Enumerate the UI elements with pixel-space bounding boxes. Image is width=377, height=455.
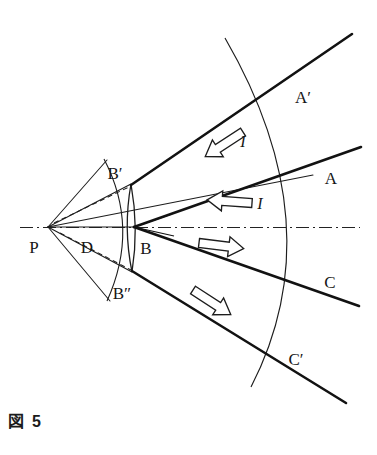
label-current-upper: I — [239, 133, 246, 150]
figure-caption: 図5 — [8, 408, 42, 432]
label-c: C — [324, 273, 335, 292]
label-c-prime: C′ — [288, 350, 303, 369]
label-b-double-prime: B″ — [113, 284, 131, 303]
label-b-prime: B′ — [107, 164, 122, 183]
label-p: P — [29, 238, 38, 257]
ray-p-to-b-prime — [48, 184, 131, 227]
figure-container: P D B B′ B″ A′ A C C′ I I 図5 — [0, 0, 377, 455]
dashed-ray-upper — [54, 186, 131, 223]
ray-p-long-upper — [48, 175, 313, 227]
ray-diagram-svg: P D B B′ B″ A′ A C C′ I I — [0, 0, 377, 455]
ray-p-to-lower-arc-edge — [48, 227, 110, 301]
dashed-ray-lower — [60, 233, 131, 270]
flux-arrow-bottom — [188, 282, 237, 323]
label-a-prime: A′ — [295, 88, 311, 107]
arrow-shape-lower — [198, 233, 245, 258]
arrow-shape-bottom — [188, 282, 237, 323]
flux-arrow-lower — [198, 233, 245, 258]
thick-rays-group — [131, 34, 361, 403]
label-d: D — [81, 238, 93, 257]
label-b: B — [140, 239, 151, 258]
thin-rays-group — [48, 160, 313, 301]
label-a: A — [325, 169, 338, 188]
figure-caption-symbol: 図 — [8, 412, 25, 431]
label-current-middle: I — [256, 195, 263, 212]
figure-caption-number: 5 — [32, 413, 42, 430]
tick-upper — [134, 214, 172, 227]
